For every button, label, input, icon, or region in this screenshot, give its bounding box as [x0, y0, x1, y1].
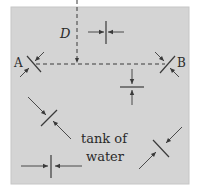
- depth-label: D: [59, 26, 71, 41]
- tank-label-line1: tank of: [81, 131, 128, 146]
- tank-label-line2: water: [86, 149, 125, 164]
- point-a-label: A: [13, 56, 23, 70]
- point-b-label: B: [177, 56, 186, 70]
- diagram-canvas: D A B tank of water: [0, 0, 202, 195]
